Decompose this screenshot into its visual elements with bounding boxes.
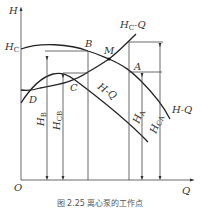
y-axis-label: H [8,5,18,16]
origin-label: O [14,182,22,193]
x-axis-label: Q [182,185,190,196]
point-c-label: C [70,82,78,93]
pump-operating-point-diagram: H Q O HC HC-Q H-Q H-Q B M A C D HB HCB H… [0,0,201,208]
pump-curve-h-q-upper [21,45,170,119]
point-b-label: B [84,38,92,49]
point-d-label: D [28,94,37,105]
hb-label: HB [35,112,48,127]
point-a-label: A [133,61,141,72]
point-m-label: M [103,45,115,56]
figure-caption: 图 2.25 离心泵的工作点 [57,198,144,208]
pump-curve-upper-label: H-Q [171,104,192,115]
hcb-label: HCB [51,111,64,131]
hca-label: HCA [147,112,166,136]
operating-point-m [107,57,110,60]
ha-label: HA [130,107,148,126]
system-curve-label: HC-Q [119,19,146,32]
hc-intercept-label: HC [4,41,19,54]
